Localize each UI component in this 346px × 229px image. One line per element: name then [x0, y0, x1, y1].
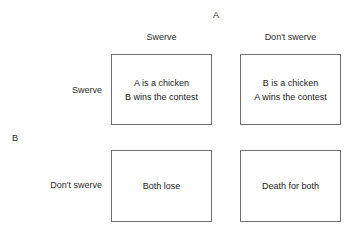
- column-header-dont-swerve: Don't swerve: [240, 31, 341, 43]
- matrix-cell-dont-swerve-dont-swerve: Death for both: [240, 150, 341, 222]
- row-header-swerve: Swerve: [22, 84, 102, 96]
- matrix-cell-swerve-swerve: A is a chicken B wins the contest: [111, 54, 212, 125]
- cell-text-line: A is a chicken: [134, 76, 189, 90]
- cell-text-line: A wins the contest: [254, 90, 327, 104]
- row-player-label: B: [12, 133, 18, 144]
- payoff-matrix-diagram: A B Swerve Don't swerve Swerve Don't swe…: [0, 0, 346, 229]
- cell-text-line: B is a chicken: [263, 76, 319, 90]
- cell-text-line: Both lose: [143, 179, 181, 193]
- matrix-cell-swerve-dont-swerve: B is a chicken A wins the contest: [240, 54, 341, 125]
- cell-text-line: B wins the contest: [125, 90, 198, 104]
- column-header-swerve: Swerve: [111, 31, 212, 43]
- matrix-cell-dont-swerve-swerve: Both lose: [111, 150, 212, 222]
- column-player-label: A: [0, 10, 346, 21]
- cell-text-line: Death for both: [262, 179, 319, 193]
- row-header-dont-swerve: Don't swerve: [22, 179, 102, 191]
